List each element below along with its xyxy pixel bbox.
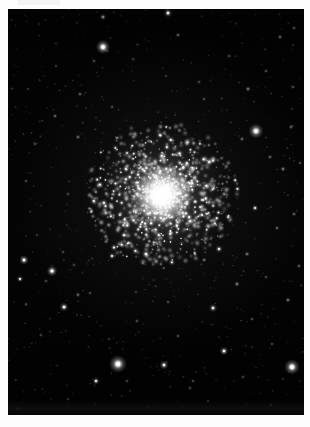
image-canvas: [0, 0, 310, 427]
plate-edge-grain: [8, 399, 304, 415]
scan-artifact: [18, 0, 60, 5]
astronomical-plate: [8, 9, 304, 415]
starfield-canvas: [8, 9, 304, 415]
